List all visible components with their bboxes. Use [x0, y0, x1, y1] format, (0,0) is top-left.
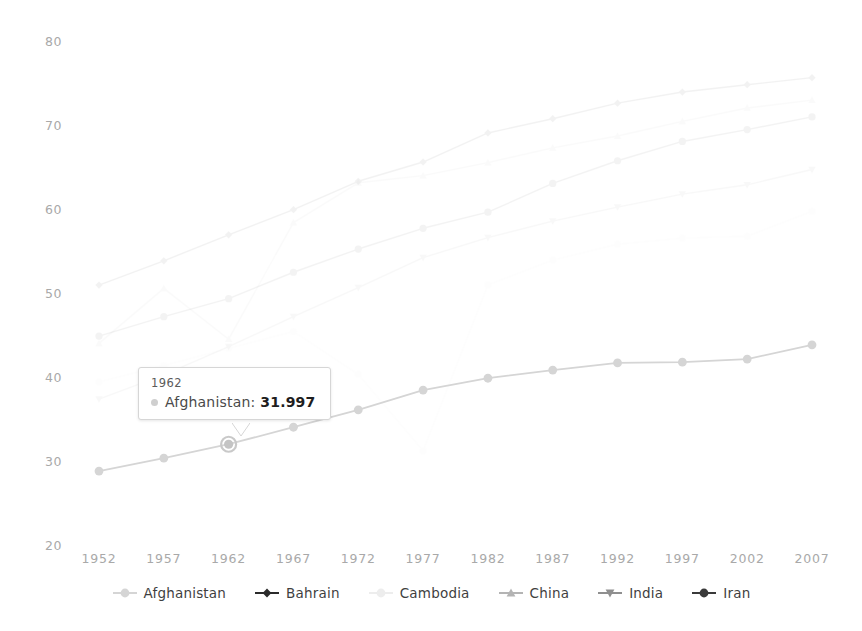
- y-tick-label: 40: [28, 370, 62, 385]
- legend-label: Cambodia: [400, 585, 470, 601]
- y-tick-label: 70: [28, 118, 62, 133]
- x-tick-label: 1962: [199, 551, 259, 566]
- y-tick-label: 30: [28, 454, 62, 469]
- data-point: [159, 454, 168, 463]
- legend-label: Afghanistan: [144, 585, 227, 601]
- data-point: [354, 405, 363, 414]
- legend-item-cambodia[interactable]: Cambodia: [368, 585, 470, 601]
- legend-label: Iran: [723, 585, 750, 601]
- chart-legend: AfghanistanBahrainCambodiaChinaIndiaIran: [0, 585, 862, 601]
- legend-item-india[interactable]: India: [597, 585, 663, 601]
- chart-tooltip: 1962 Afghanistan: 31.997: [138, 367, 331, 420]
- diamond-marker-icon: [254, 586, 280, 600]
- legend-item-china[interactable]: China: [498, 585, 570, 601]
- legend-label: China: [530, 585, 570, 601]
- data-point: [678, 358, 687, 367]
- x-tick-label: 1952: [69, 551, 129, 566]
- circle-filled-marker-icon: [691, 586, 717, 600]
- triangle-up-marker-icon: [498, 586, 524, 600]
- series-bahrain[interactable]: [95, 74, 815, 289]
- triangle-down-marker-icon: [597, 586, 623, 600]
- data-point: [95, 467, 104, 476]
- x-tick-label: 2007: [782, 551, 842, 566]
- line-chart: 80706050403020 1952195719621967197219771…: [0, 0, 862, 631]
- y-tick-label: 20: [28, 538, 62, 553]
- data-point: [808, 340, 817, 349]
- x-tick-label: 1992: [588, 551, 648, 566]
- circle-marker-icon: [112, 586, 138, 600]
- legend-label: Bahrain: [286, 585, 340, 601]
- data-point: [613, 359, 622, 368]
- tooltip-pointer: [232, 423, 250, 437]
- x-tick-label: 1997: [652, 551, 712, 566]
- legend-item-afghanistan[interactable]: Afghanistan: [112, 585, 227, 601]
- x-tick-label: 1957: [134, 551, 194, 566]
- y-tick-label: 80: [28, 34, 62, 49]
- tooltip-color-swatch: [151, 399, 158, 406]
- y-tick-label: 60: [28, 202, 62, 217]
- x-tick-label: 2002: [717, 551, 777, 566]
- data-point: [484, 374, 493, 383]
- tooltip-header: 1962: [151, 376, 318, 390]
- data-point: [289, 423, 298, 432]
- data-point: [743, 355, 752, 364]
- legend-item-bahrain[interactable]: Bahrain: [254, 585, 340, 601]
- series-china[interactable]: [95, 97, 815, 347]
- legend-label: India: [629, 585, 663, 601]
- x-tick-label: 1977: [393, 551, 453, 566]
- plot-area[interactable]: [0, 0, 862, 631]
- y-tick-label: 50: [28, 286, 62, 301]
- data-point: [419, 386, 428, 395]
- tooltip-row: Afghanistan: 31.997: [151, 394, 318, 410]
- x-tick-label: 1972: [328, 551, 388, 566]
- data-point: [548, 366, 557, 375]
- tooltip-value: 31.997: [260, 394, 315, 410]
- circle-marker-icon: [368, 586, 394, 600]
- x-tick-label: 1982: [458, 551, 518, 566]
- x-tick-label: 1967: [263, 551, 323, 566]
- legend-item-iran[interactable]: Iran: [691, 585, 750, 601]
- tooltip-separator: :: [251, 394, 256, 410]
- x-tick-label: 1987: [523, 551, 583, 566]
- hovered-data-point: [224, 440, 233, 449]
- tooltip-series-name: Afghanistan: [165, 394, 251, 410]
